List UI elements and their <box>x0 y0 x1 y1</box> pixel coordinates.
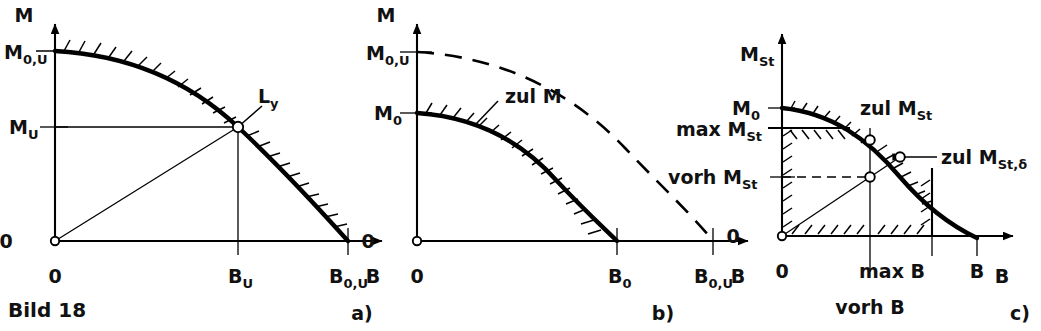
panel-c-left-hatching <box>783 130 792 227</box>
panel-a-y-axis-label: M <box>15 4 34 26</box>
panel-a-id-label: a) <box>351 302 373 324</box>
panel-a-xtick-bu: BU <box>228 265 253 291</box>
panel-a-limit-curve <box>55 51 348 241</box>
panel-b-curve-label: zul M <box>505 85 562 107</box>
panel-b-hatching <box>426 103 601 234</box>
panel-a-ray <box>55 127 238 241</box>
panel-c-annotation-zul-mst-delta: zul MSt,δ <box>941 146 1027 172</box>
panel-c-xtick-max-b: max B <box>859 260 925 282</box>
panel-a-origin-x-label: 0 <box>48 265 61 287</box>
panel-c-xtick-vorh-b: vorh B <box>835 296 904 318</box>
panel-b-y-axis-label: M <box>377 4 396 26</box>
panel-c-ytick-vorh-mst: vorh MSt <box>668 166 757 192</box>
panel-c-origin-y-label: 0 <box>726 225 739 247</box>
panel-a-point-ly <box>233 122 243 132</box>
panel-c-y-axis-label: MSt <box>740 43 775 69</box>
panel-a-hatching <box>64 40 347 227</box>
figure-canvas: M B M0,U MU 0 0 BU B0,U Ly a) <box>0 0 1041 331</box>
panel-b-xtick-b0: B0 <box>608 265 632 291</box>
panel-b-ultimate-curve <box>417 52 713 241</box>
panel-a-origin-y-label: 0 <box>0 230 13 252</box>
figure-bild-18: M B M0,U MU 0 0 BU B0,U Ly a) <box>0 0 1041 331</box>
panel-a: M B M0,U MU 0 0 BU B0,U Ly a) <box>0 4 382 324</box>
panel-b-origin-x-label: 0 <box>410 265 423 287</box>
panel-c-ray <box>782 157 900 236</box>
panel-c-origin-x-label: 0 <box>775 260 788 282</box>
panel-c-id-label: c) <box>1010 302 1030 324</box>
panel-b-ytick-m0: M0 <box>374 102 402 128</box>
panel-b-id-label: b) <box>652 302 674 324</box>
panel-c-bottom-hatching <box>792 225 924 234</box>
panel-b-ytick-m0u: M0,U <box>366 42 409 68</box>
panel-b: M B M0,U M0 0 0 B0 B0,U zul M b) <box>361 4 748 324</box>
panel-c-origin-marker <box>778 232 786 240</box>
panel-b-leader-zulm <box>475 101 498 125</box>
panel-c-x-axis-label: B <box>995 265 1009 287</box>
panel-c-xtick-b: B <box>970 260 984 282</box>
panel-c-point-vorh <box>865 172 875 182</box>
panel-b-origin-marker <box>413 237 421 245</box>
figure-caption: Bild 18 <box>8 298 86 322</box>
panel-a-ytick-mu: MU <box>9 116 38 142</box>
panel-b-xtick-b0u: B0,U <box>694 265 733 291</box>
panel-c-point-zul-mst-delta <box>895 152 905 162</box>
panel-c-ytick-max-mst: max MSt <box>676 118 762 144</box>
panel-a-origin-marker <box>51 237 59 245</box>
panel-c-top-hatching <box>790 130 845 139</box>
panel-c-point-zul-mst <box>865 135 875 145</box>
panel-a-ytick-m0u: M0,U <box>4 41 47 67</box>
panel-b-origin-y-label: 0 <box>361 230 374 252</box>
panel-a-xtick-b0u: B0,U <box>329 265 368 291</box>
panel-c-annotation-zul-mst: zul MSt <box>860 97 932 123</box>
